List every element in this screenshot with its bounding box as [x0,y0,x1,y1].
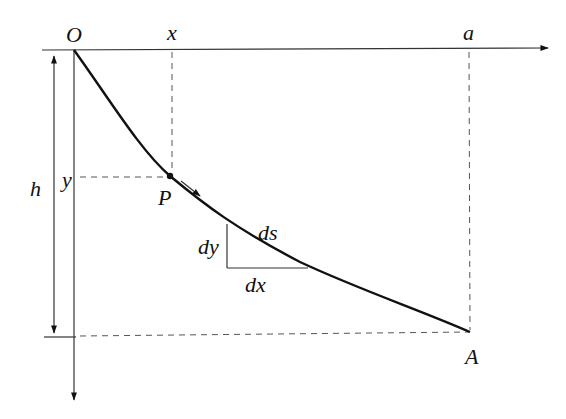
x-axis [42,48,548,50]
label-a: a [463,20,474,45]
label-h: h [30,176,41,201]
label-y: y [60,167,72,192]
label-dy: dy [198,234,219,259]
label-end-a: A [463,344,479,369]
diagram-canvas: O x a h y P A dy ds dx [0,0,566,419]
label-dx: dx [245,272,266,297]
brachistochrone-curve [74,50,470,332]
label-origin: O [66,22,82,47]
a-guide-dashed-line [469,52,470,330]
label-point-p: P [157,185,171,210]
label-ds: ds [258,220,278,245]
a-level-dashed-line [80,332,470,336]
point-p-dot [167,173,173,179]
label-x: x [166,20,177,45]
